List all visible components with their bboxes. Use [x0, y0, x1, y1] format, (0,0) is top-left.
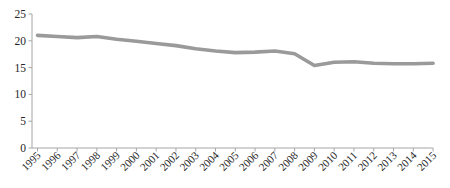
x-tick-label: 2004 — [197, 149, 221, 173]
x-tick-label: 2013 — [375, 149, 399, 173]
y-tick-label: 0 — [20, 142, 26, 154]
y-axis: 0510152025 — [15, 8, 33, 154]
data-line-series-1 — [38, 35, 434, 65]
x-tick-label: 2009 — [296, 149, 320, 173]
x-tick-label: 2010 — [316, 149, 340, 173]
x-axis: 1995199619971998199920002001200220032004… — [19, 148, 439, 173]
x-tick-label: 2012 — [355, 149, 379, 173]
x-tick-label: 2014 — [395, 149, 419, 173]
x-tick-label: 2001 — [138, 149, 162, 173]
x-tick-label: 2002 — [157, 149, 181, 173]
x-tick-label: 2008 — [276, 149, 300, 173]
x-tick-label: 2003 — [177, 149, 201, 173]
x-tick-label: 2006 — [236, 149, 260, 173]
chart-figure: 0510152025199519961997199819992000200120… — [0, 0, 450, 188]
x-tick-label: 1997 — [58, 149, 82, 173]
axes — [32, 14, 433, 148]
y-tick-label: 20 — [15, 35, 27, 47]
x-tick-label: 2005 — [217, 149, 241, 173]
x-tick-label: 1998 — [78, 149, 102, 173]
x-tick-label: 2015 — [414, 149, 438, 173]
x-tick-label: 2007 — [256, 149, 280, 173]
x-tick-label: 1996 — [39, 149, 63, 173]
y-tick-label: 25 — [15, 8, 27, 20]
x-tick-label: 2011 — [336, 149, 360, 173]
line-chart: 0510152025199519961997199819992000200120… — [0, 0, 450, 188]
x-tick-label: 2000 — [118, 149, 142, 173]
x-tick-label: 1999 — [98, 149, 122, 173]
y-tick-label: 15 — [15, 62, 27, 74]
y-tick-label: 10 — [15, 88, 27, 100]
y-tick-label: 5 — [20, 115, 26, 127]
